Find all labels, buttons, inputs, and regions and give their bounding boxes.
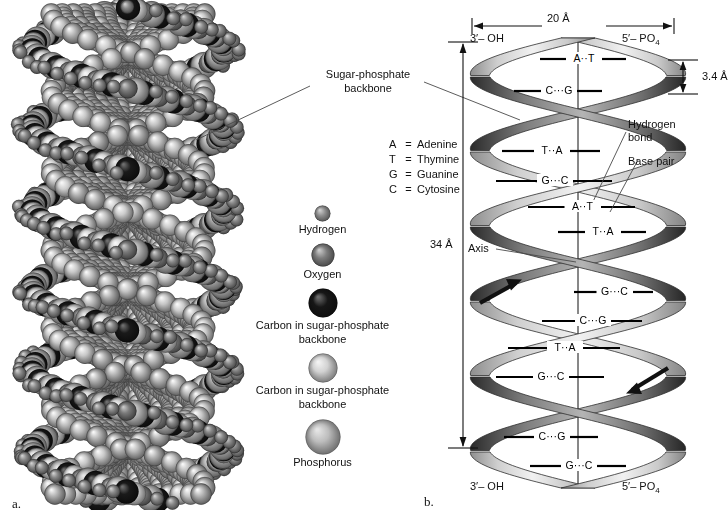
phosphorus-sphere-icon	[305, 419, 341, 455]
label-hydrogen-bond-line1: Hydrogen	[628, 118, 676, 131]
label-5prime-po4-bottom-sub: 4	[655, 486, 659, 495]
base-pair-label: A··T	[565, 200, 601, 212]
oxygen-sphere-icon	[311, 243, 335, 267]
measurement-20-angstrom: 20 Å	[547, 12, 570, 25]
base-pair-label: G···C	[533, 370, 569, 382]
label-3prime-oh-bottom: 3′– OH	[470, 480, 504, 493]
atom-color-legend: Hydrogen Oxygen Carbon in sugar-phosphat…	[215, 205, 430, 472]
carbon-light-sphere-icon	[308, 353, 338, 383]
label-5prime-po4-top-sub: 4	[655, 38, 659, 47]
base-key-equals: =	[402, 167, 415, 182]
base-pair-label: G···C	[537, 174, 573, 186]
hydrogen-sphere-icon	[314, 205, 331, 222]
legend-item-carbon-dark: Carbon in sugar-phosphate backbone	[215, 288, 430, 346]
base-key-symbol: C	[389, 182, 402, 197]
label-base-pair: Base pair	[628, 155, 674, 168]
label-hydrogen-bond-line2: bond	[628, 131, 652, 144]
legend-item-hydrogen: Hydrogen	[215, 205, 430, 237]
base-key-equals: =	[402, 182, 415, 197]
base-pair-label: T··A	[585, 225, 621, 237]
base-key-symbol: A	[389, 137, 402, 152]
label-axis: Axis	[468, 242, 489, 255]
callout-line-1: Sugar-phosphate	[313, 68, 423, 82]
legend-label-carbon-light-line2: backbone	[215, 398, 430, 412]
legend-label-phosphorus: Phosphorus	[215, 456, 430, 470]
panel-a-letter: a.	[12, 496, 21, 512]
legend-label-hydrogen: Hydrogen	[215, 223, 430, 237]
measurement-34-angstrom: 34 Å	[430, 238, 453, 251]
base-pair-label: C···G	[575, 314, 611, 326]
carbon-dark-sphere-icon	[308, 288, 338, 318]
base-key-symbol: G	[389, 167, 402, 182]
base-pair-label: T··A	[534, 144, 570, 156]
panel-b-double-helix-diagram: 3′– OH 5′– PO4 3′– OH 5′– PO4 20 Å 3.4 Å…	[430, 0, 716, 521]
legend-item-carbon-light: Carbon in sugar-phosphate backbone	[215, 353, 430, 411]
legend-item-oxygen: Oxygen	[215, 243, 430, 282]
panel-b-letter: b.	[424, 494, 434, 510]
measurement-3-4-angstrom: 3.4 Å	[702, 70, 728, 83]
label-3prime-oh-top: 3′– OH	[470, 32, 504, 45]
label-5prime-po4-top-text: 5′– PO	[622, 32, 655, 44]
legend-label-carbon-light-line1: Carbon in sugar-phosphate	[215, 384, 430, 398]
legend-label-carbon-dark-line1: Carbon in sugar-phosphate	[215, 319, 430, 333]
base-pair-label: T··A	[547, 341, 583, 353]
callout-line-2: backbone	[313, 82, 423, 96]
double-helix-drawing	[430, 0, 716, 521]
label-5prime-po4-top: 5′– PO4	[622, 32, 660, 49]
base-key-equals: =	[402, 152, 415, 167]
label-5prime-po4-bottom-text: 5′– PO	[622, 480, 655, 492]
base-pair-label: A··T	[566, 52, 602, 64]
legend-item-phosphorus: Phosphorus	[215, 419, 430, 470]
base-pair-label: C···G	[541, 84, 577, 96]
base-pair-label: G···C	[597, 285, 633, 297]
legend-label-carbon-dark-line2: backbone	[215, 333, 430, 347]
base-key-equals: =	[402, 137, 415, 152]
base-key-symbol: T	[389, 152, 402, 167]
base-pair-label: G···C	[561, 459, 597, 471]
sugar-phosphate-backbone-callout: Sugar-phosphate backbone	[313, 68, 423, 95]
legend-label-oxygen: Oxygen	[215, 268, 430, 282]
base-pair-label: C···G	[534, 430, 570, 442]
label-5prime-po4-bottom: 5′– PO4	[622, 480, 660, 497]
